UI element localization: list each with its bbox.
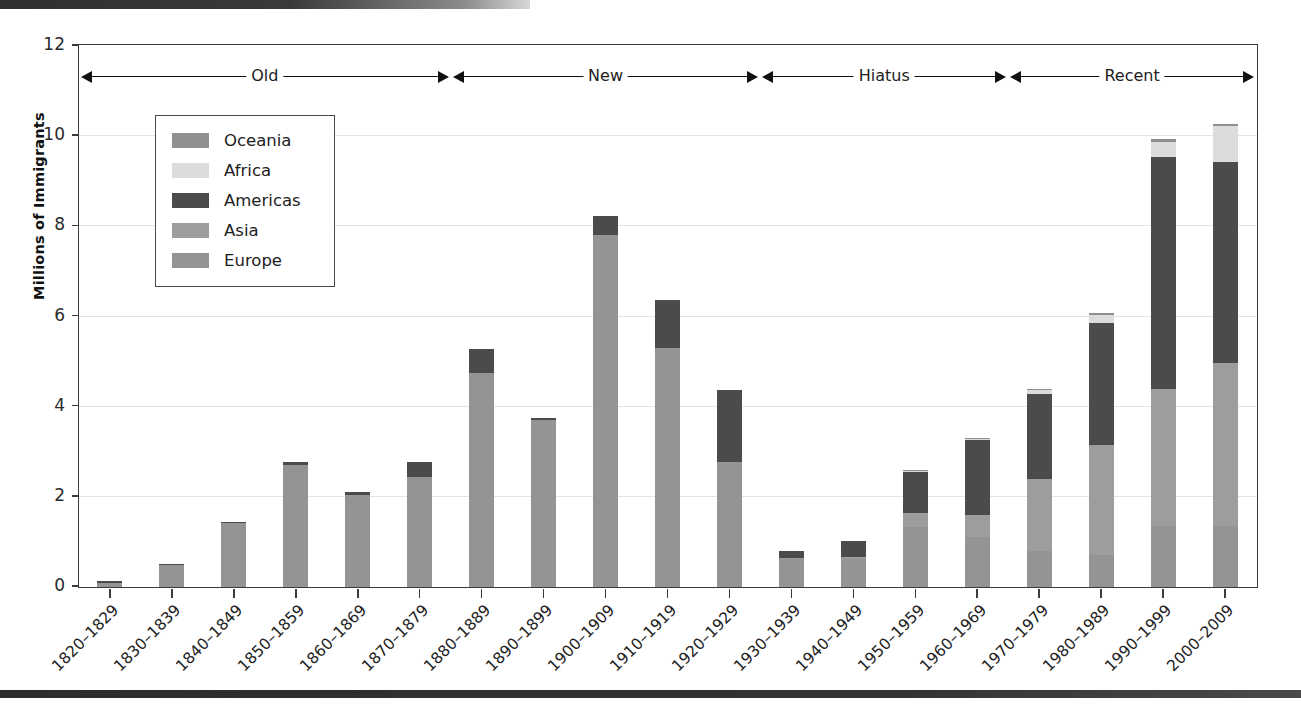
bar-segment-americas xyxy=(779,551,804,558)
legend-item-americas[interactable]: Americas xyxy=(156,185,334,215)
arrow-right-icon xyxy=(747,71,758,83)
bar-1830-1839 xyxy=(159,564,184,587)
bar-segment-asia xyxy=(1151,389,1176,527)
page-rule-top xyxy=(0,0,530,9)
bar-segment-europe xyxy=(159,564,184,587)
y-tick-mark xyxy=(72,134,79,136)
bar-segment-americas xyxy=(1151,157,1176,388)
bar-segment-europe xyxy=(903,527,928,587)
bar-1960-1969 xyxy=(965,438,990,587)
legend-item-africa[interactable]: Africa xyxy=(156,155,334,185)
chart-legend: OceaniaAfricaAmericasAsiaEurope xyxy=(155,115,335,287)
bar-segment-oceania xyxy=(1213,124,1238,127)
era-annotation-hiatus: Hiatus xyxy=(762,67,1006,87)
bar-segment-europe xyxy=(221,523,246,587)
bar-segment-americas xyxy=(1213,162,1238,362)
y-tick-mark xyxy=(72,225,79,227)
bar-segment-europe xyxy=(469,373,494,587)
bar-1850-1859 xyxy=(283,462,308,587)
bar-segment-americas xyxy=(97,581,122,582)
legend-label: Americas xyxy=(224,191,301,210)
arrow-left-icon xyxy=(762,71,773,83)
y-tick-label: 10 xyxy=(25,124,65,144)
page-rule-bottom xyxy=(0,690,1301,698)
bar-segment-europe xyxy=(407,477,432,587)
bar-segment-asia xyxy=(965,515,990,536)
bar-1910-1919 xyxy=(655,300,680,587)
bar-segment-europe xyxy=(531,420,556,587)
legend-label: Asia xyxy=(224,221,259,240)
bar-segment-americas xyxy=(1089,323,1114,445)
bar-1860-1869 xyxy=(345,492,370,587)
arrow-left-icon xyxy=(1010,71,1021,83)
bar-segment-americas xyxy=(965,440,990,515)
era-annotation-recent: Recent xyxy=(1010,67,1254,87)
bar-segment-europe xyxy=(97,583,122,588)
bar-segment-africa xyxy=(1089,315,1114,323)
bar-segment-europe xyxy=(841,559,866,587)
era-label: Hiatus xyxy=(854,66,915,86)
bar-segment-europe xyxy=(1089,555,1114,587)
bar-segment-europe xyxy=(1151,526,1176,587)
bar-segment-asia xyxy=(1089,445,1114,556)
bar-segment-europe xyxy=(593,235,618,587)
bar-segment-europe xyxy=(779,559,804,587)
y-tick-mark xyxy=(72,585,79,587)
bar-segment-africa xyxy=(1027,390,1052,394)
x-tick-label: 2000–2009 xyxy=(1164,601,1238,675)
bar-segment-americas xyxy=(221,522,246,523)
legend-swatch-asia xyxy=(172,223,209,238)
bar-1980-1989 xyxy=(1089,313,1114,587)
bar-segment-americas xyxy=(593,216,618,235)
legend-swatch-europe xyxy=(172,253,209,268)
bar-segment-americas xyxy=(469,349,494,373)
bar-segment-europe xyxy=(655,348,680,587)
legend-item-europe[interactable]: Europe xyxy=(156,245,334,275)
x-tick-mark xyxy=(1162,589,1164,598)
era-annotation-old: Old xyxy=(81,67,449,87)
legend-item-oceania[interactable]: Oceania xyxy=(156,125,334,155)
arrow-right-icon xyxy=(438,71,449,83)
x-tick-mark xyxy=(729,589,731,598)
x-tick-mark xyxy=(1038,589,1040,598)
bar-segment-americas xyxy=(345,492,370,496)
legend-label: Africa xyxy=(224,161,271,180)
x-tick-mark xyxy=(357,589,359,598)
bar-segment-europe xyxy=(717,462,742,587)
bar-segment-asia xyxy=(779,558,804,559)
bar-segment-oceania xyxy=(1027,389,1052,390)
y-tick-label: 12 xyxy=(25,34,65,54)
era-label: Recent xyxy=(1099,66,1164,86)
x-tick-mark xyxy=(791,589,793,598)
legend-item-asia[interactable]: Asia xyxy=(156,215,334,245)
legend-swatch-oceania xyxy=(172,133,209,148)
bar-segment-americas xyxy=(1027,394,1052,480)
bar-1840-1849 xyxy=(221,522,246,587)
bar-segment-oceania xyxy=(1151,139,1176,142)
x-tick-mark xyxy=(1224,589,1226,598)
y-tick-mark xyxy=(72,495,79,497)
bar-segment-americas xyxy=(655,300,680,348)
arrow-right-icon xyxy=(995,71,1006,83)
x-tick-mark xyxy=(605,589,607,598)
bar-segment-africa xyxy=(965,439,990,440)
bar-segment-americas xyxy=(903,471,928,512)
y-axis-title: Millions of Immigrants xyxy=(31,60,47,300)
bar-segment-africa xyxy=(1213,126,1238,162)
bar-segment-europe xyxy=(965,537,990,587)
bar-segment-americas xyxy=(841,541,866,557)
bar-segment-americas xyxy=(407,462,432,476)
bar-1890-1899 xyxy=(531,418,556,587)
legend-label: Oceania xyxy=(224,131,291,150)
bar-2000-2009 xyxy=(1213,124,1238,587)
arrow-left-icon xyxy=(81,71,92,83)
bar-segment-americas xyxy=(531,418,556,420)
bar-1880-1889 xyxy=(469,349,494,587)
legend-swatch-africa xyxy=(172,163,209,178)
x-tick-mark xyxy=(853,589,855,598)
bar-1950-1959 xyxy=(903,470,928,587)
x-tick-mark xyxy=(481,589,483,598)
y-tick-mark xyxy=(72,315,79,317)
bar-1920-1929 xyxy=(717,390,742,587)
era-annotation-new: New xyxy=(453,67,759,87)
